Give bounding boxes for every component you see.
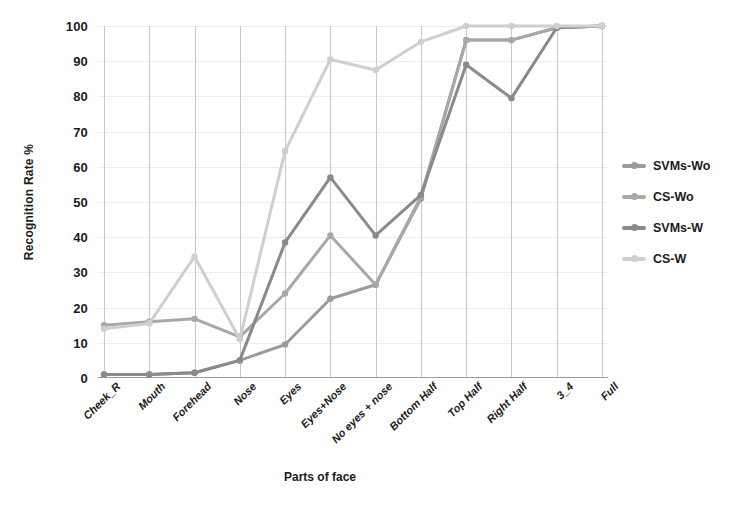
data-point	[282, 239, 288, 245]
series-line	[104, 26, 602, 374]
x-axis-tick-labels: Cheek_RMouthForeheadNoseEyesEyes+NoseNo …	[98, 380, 608, 460]
legend-color-swatch	[622, 195, 646, 199]
x-axis-tick-label: Eyes+Nose	[299, 380, 349, 430]
data-point	[237, 336, 243, 342]
legend-item-svms-w[interactable]: SVMs-W	[622, 212, 750, 243]
data-point	[327, 174, 333, 180]
data-point	[327, 56, 333, 62]
chart-root: Recognition Rate % 010203040506070809010…	[0, 0, 754, 526]
data-point	[508, 37, 514, 43]
data-point	[508, 95, 514, 101]
legend-color-swatch	[622, 164, 646, 168]
data-point	[101, 326, 107, 332]
y-axis-tick-label: 70	[48, 124, 88, 139]
series-svms-w	[101, 23, 605, 378]
y-axis-tick-label: 0	[48, 371, 88, 386]
data-point	[463, 37, 469, 43]
legend-label: SVMs-W	[653, 221, 703, 235]
data-point	[282, 148, 288, 154]
x-axis-tick-label: Top Half	[445, 380, 484, 419]
y-axis-tick-label: 30	[48, 265, 88, 280]
legend-label: SVMs-Wo	[653, 159, 710, 173]
data-point	[463, 62, 469, 68]
x-axis-tick-label: Eyes	[277, 380, 304, 407]
y-axis-tick-label: 10	[48, 335, 88, 350]
y-axis-tick-label: 90	[48, 54, 88, 69]
data-point	[282, 290, 288, 296]
legend-color-swatch	[622, 226, 646, 230]
data-point	[146, 320, 152, 326]
data-point	[327, 232, 333, 238]
data-point	[418, 39, 424, 45]
y-axis-tick-label: 20	[48, 300, 88, 315]
x-axis-tick-label: Forehead	[170, 380, 213, 423]
x-axis-tick-label: Full	[598, 380, 620, 402]
data-point	[418, 192, 424, 198]
legend-color-swatch	[622, 257, 646, 261]
data-point	[191, 370, 197, 376]
data-point	[282, 341, 288, 347]
legend-item-cs-wo[interactable]: CS-Wo	[622, 181, 750, 212]
data-point	[554, 23, 560, 29]
data-point	[146, 371, 152, 377]
data-point	[372, 67, 378, 73]
series-lines	[98, 26, 608, 378]
x-axis-tick-label: 3_4	[554, 380, 575, 401]
y-axis-title: Recognition Rate %	[22, 144, 36, 260]
data-point	[191, 316, 197, 322]
data-point	[327, 296, 333, 302]
y-axis-tick-label: 50	[48, 195, 88, 210]
series-line	[104, 26, 602, 374]
data-point	[191, 253, 197, 259]
legend-label: CS-W	[653, 252, 686, 266]
data-point	[372, 232, 378, 238]
data-point	[508, 23, 514, 29]
x-axis-tick-label: Right Half	[485, 380, 530, 425]
legend-item-cs-w[interactable]: CS-W	[622, 243, 750, 274]
y-axis-tick-label: 60	[48, 159, 88, 174]
y-axis-tick-label: 100	[48, 19, 88, 34]
x-axis-tick-label: Nose	[231, 380, 259, 408]
data-point	[101, 371, 107, 377]
plot-area	[98, 26, 608, 378]
y-axis-tick-label: 40	[48, 230, 88, 245]
data-point	[237, 357, 243, 363]
legend-label: CS-Wo	[653, 190, 694, 204]
data-point	[372, 282, 378, 288]
data-point	[599, 23, 605, 29]
x-axis-tick-label: Mouth	[136, 380, 168, 412]
legend-item-svms-wo[interactable]: SVMs-Wo	[622, 150, 750, 181]
series-svms-wo	[101, 23, 605, 378]
y-axis-tick-label: 80	[48, 89, 88, 104]
chart-legend: SVMs-WoCS-WoSVMs-WCS-W	[622, 150, 750, 274]
y-axis-title-wrap: Recognition Rate %	[18, 26, 40, 378]
data-point	[463, 23, 469, 29]
x-axis-title: Parts of face	[0, 470, 640, 484]
x-axis-tick-label: Cheek_R	[81, 380, 123, 422]
